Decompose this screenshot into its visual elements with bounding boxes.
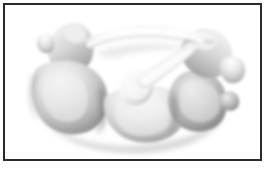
figure-root [0, 0, 268, 170]
vertebra-3d-render [5, 5, 260, 159]
figure-frame [3, 3, 262, 161]
